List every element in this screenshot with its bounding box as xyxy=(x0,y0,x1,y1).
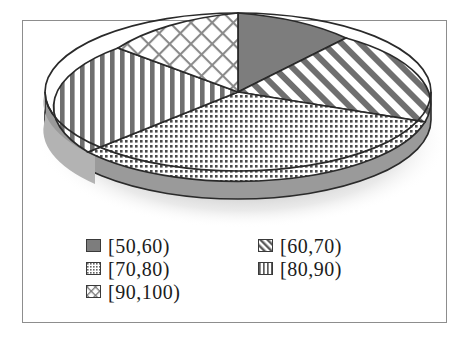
pie-chart-figure: [50,60) [60,70) [70,80) [80,90) xyxy=(0,0,464,349)
legend-label-90-100: [90,100) xyxy=(108,282,180,302)
legend-item-80-90[interactable]: [80,90) xyxy=(258,257,430,280)
legend-swatch-crosshatch-icon xyxy=(86,285,101,298)
legend-swatch-diagonal-stripes-icon xyxy=(258,239,273,252)
legend-label-60-70: [60,70) xyxy=(280,236,342,256)
legend-item-70-80[interactable]: [70,80) xyxy=(86,257,258,280)
pie-slices xyxy=(54,13,431,181)
legend-label-70-80: [70,80) xyxy=(108,259,170,279)
chart-legend: [50,60) [60,70) [70,80) [80,90) xyxy=(86,234,386,303)
legend-item-50-60[interactable]: [50,60) xyxy=(86,234,258,257)
legend-item-90-100[interactable]: [90,100) xyxy=(86,280,258,303)
chart-plot-area xyxy=(0,0,464,240)
legend-swatch-solid-icon xyxy=(86,239,101,252)
legend-swatch-dot-grid-icon xyxy=(86,262,101,275)
legend-item-60-70[interactable]: [60,70) xyxy=(258,234,430,257)
legend-swatch-vertical-stripes-icon xyxy=(258,262,273,275)
legend-label-80-90: [80,90) xyxy=(280,259,342,279)
legend-label-50-60: [50,60) xyxy=(108,236,170,256)
